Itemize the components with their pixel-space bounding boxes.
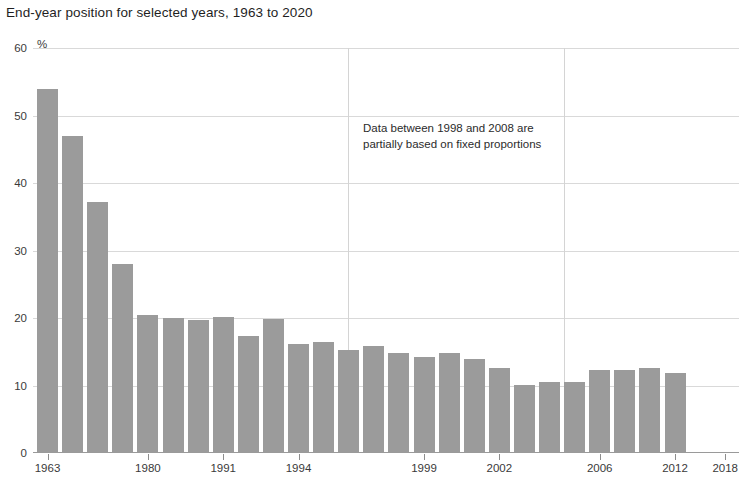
gridline-60 [33,48,739,49]
bar [514,385,535,453]
plot-area [33,48,739,453]
x-tick-2002 [499,454,500,460]
y-tick-label-50: 50 [3,110,27,122]
bar [589,370,610,453]
bar [288,344,309,453]
gridline-30 [33,251,739,252]
bar [213,317,234,453]
bar [639,368,660,453]
bar [137,315,158,453]
x-tick-label-2002: 2002 [487,462,513,474]
bar [62,136,83,453]
y-tick-label-60: 60 [3,42,27,54]
y-tick-label-30: 30 [3,245,27,257]
y-tick-label-20: 20 [3,312,27,324]
bar [614,370,635,453]
fixed-proportions-note: Data between 1998 and 2008 are partially… [363,120,553,152]
x-tick-label-2006: 2006 [587,462,613,474]
bar [338,350,359,453]
bar [414,357,435,453]
bar-chart: End-year position for selected years, 19… [0,0,741,481]
x-tick-1994 [299,454,300,460]
x-axis-baseline [33,452,739,453]
x-tick-label-1991: 1991 [210,462,236,474]
x-tick-label-1994: 1994 [286,462,312,474]
bar [313,342,334,453]
x-tick-1991 [223,454,224,460]
bar [87,202,108,453]
bar [238,336,259,453]
y-axis-tick-labels: 0102030405060 [0,48,27,453]
bar [37,89,58,454]
x-tick-1963 [48,454,49,460]
bar [489,368,510,453]
x-tick-label-1980: 1980 [135,462,161,474]
x-tick-label-2012: 2012 [662,462,688,474]
bar [564,382,585,453]
bar [539,382,560,453]
x-tick-label-1999: 1999 [411,462,437,474]
bar [665,373,686,453]
bar [363,346,384,453]
bar [112,264,133,453]
bar [188,320,209,453]
x-tick-label-2018: 2018 [712,462,738,474]
bar [263,319,284,453]
gridline-40 [33,183,739,184]
x-tick-1980 [148,454,149,460]
x-tick-label-1963: 1963 [35,462,61,474]
x-tick-2018 [725,454,726,460]
y-tick-label-40: 40 [3,177,27,189]
x-tick-2012 [675,454,676,460]
bar [439,353,460,453]
bar [464,359,485,454]
y-tick-label-0: 0 [3,447,27,459]
x-tick-2006 [600,454,601,460]
x-axis: 196319801991199419992002200620122018 [33,454,739,481]
chart-title: End-year position for selected years, 19… [6,5,313,21]
gridline-50 [33,116,739,117]
bar [163,318,184,453]
x-tick-1999 [424,454,425,460]
bar [388,353,409,453]
y-tick-label-10: 10 [3,380,27,392]
